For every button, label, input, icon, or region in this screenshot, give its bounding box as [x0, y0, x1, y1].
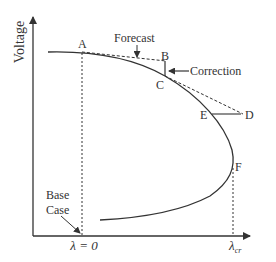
base-case-label-line1: Base: [46, 188, 69, 202]
point-f-label: F: [235, 160, 242, 174]
point-b-label: B: [161, 49, 169, 63]
pv-curve-diagram: Voltage Forecast Correction A B C D E F …: [0, 0, 276, 262]
lambda-zero-label: λ = 0: [69, 238, 98, 253]
forecast-label: Forecast: [114, 31, 155, 45]
correction-label: Correction: [190, 64, 241, 78]
point-e-label: E: [200, 108, 207, 122]
lambda-critical-label: λcr: [228, 238, 242, 255]
base-case-label-line2: Case: [46, 203, 69, 217]
base-case-arrow: [61, 216, 80, 233]
point-d-label: D: [245, 108, 254, 122]
point-c-label: C: [156, 78, 164, 92]
point-a-label: A: [78, 37, 87, 51]
lambda-critical-subscript: cr: [235, 246, 243, 255]
y-axis-label: Voltage: [12, 21, 27, 64]
